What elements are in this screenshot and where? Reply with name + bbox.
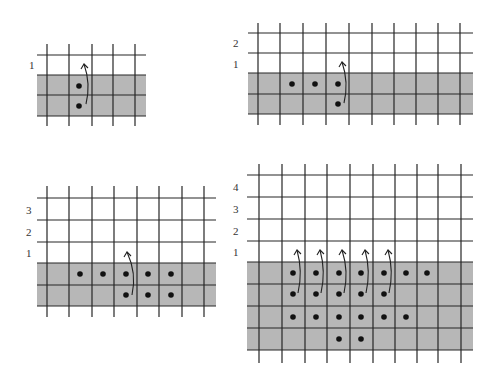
chip-dot (123, 292, 129, 298)
chip-dot (335, 101, 341, 107)
row-label: 2 (233, 225, 239, 237)
row-label: 1 (29, 59, 35, 71)
chip-dot (336, 291, 342, 297)
chip-dot (290, 314, 296, 320)
chip-dot (381, 291, 387, 297)
row-label: 2 (233, 37, 239, 49)
chip-dot (290, 291, 296, 297)
chip-dot (289, 81, 295, 87)
diagram-canvas: 1213214321 (0, 0, 496, 377)
chip-dot (358, 291, 364, 297)
chip-dot (290, 270, 296, 276)
chip-dot (145, 292, 151, 298)
chip-dot (358, 270, 364, 276)
chip-dot (358, 336, 364, 342)
row-label: 3 (26, 204, 32, 216)
chip-dot (403, 270, 409, 276)
chip-dot (381, 270, 387, 276)
chip-dot (381, 314, 387, 320)
chip-dot (403, 314, 409, 320)
row-label: 2 (26, 226, 32, 238)
row-label: 1 (233, 246, 239, 258)
chip-dot (313, 314, 319, 320)
chip-dot (77, 271, 83, 277)
chip-dot (313, 291, 319, 297)
chip-dot (313, 270, 319, 276)
chip-dot (424, 270, 430, 276)
chip-dot (145, 271, 151, 277)
chip-dot (358, 314, 364, 320)
chip-dot (168, 271, 174, 277)
diagram-3-carry-three: 321 (26, 186, 216, 317)
chip-dot (123, 271, 129, 277)
chip-dot (336, 314, 342, 320)
row-label: 4 (233, 181, 239, 193)
chip-dot (336, 270, 342, 276)
diagram-2-carry-two: 21 (233, 23, 473, 125)
row-label: 3 (233, 203, 239, 215)
chip-dot (76, 103, 82, 109)
chip-dot (336, 336, 342, 342)
chip-dot (76, 83, 82, 89)
row-label: 1 (26, 247, 32, 259)
chip-dot (168, 292, 174, 298)
diagram-1-carry-one: 1 (29, 44, 146, 126)
diagram-4-carry-four: 4321 (233, 164, 473, 363)
row-label: 1 (233, 58, 239, 70)
chip-dot (312, 81, 318, 87)
chip-dot (100, 271, 106, 277)
chip-dot (335, 81, 341, 87)
